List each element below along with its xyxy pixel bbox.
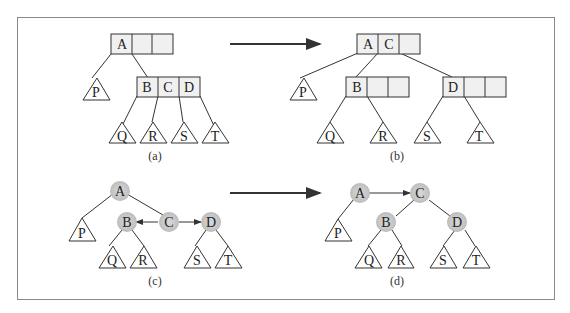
svg-text:T: T [475,129,484,144]
caption-d: (d) [390,274,404,288]
svg-text:D: D [452,215,462,230]
svg-text:P: P [92,85,100,100]
svg-text:T: T [211,129,220,144]
svg-text:S: S [423,129,431,144]
svg-text:C: C [164,215,173,230]
caption-b: (b) [390,149,404,163]
svg-text:C: C [163,80,172,95]
svg-text:C: C [415,186,424,201]
svg-text:A: A [363,37,374,52]
svg-text:T: T [472,253,481,268]
svg-text:P: P [78,226,86,241]
panel-d [325,193,490,268]
svg-text:A: A [355,186,366,201]
svg-text:R: R [396,253,406,268]
svg-text:D: D [184,80,194,95]
svg-text:S: S [180,129,188,144]
svg-text:P: P [334,226,342,241]
svg-text:D: D [206,215,216,230]
svg-text:S: S [439,253,447,268]
svg-text:B: B [352,80,361,95]
panel-b [290,34,506,143]
svg-text:S: S [193,253,201,268]
svg-text:R: R [148,129,158,144]
node-a-key: A [117,37,128,52]
svg-text:C: C [384,37,393,52]
svg-text:D: D [448,80,458,95]
svg-text:Q: Q [117,129,127,144]
svg-text:P: P [299,85,307,100]
panel-b-labels: A C P B D Q R S T (b) [299,37,484,163]
panel-c-nodes: A B C D P Q R S T (c) [78,181,233,288]
svg-text:T: T [224,253,233,268]
panel-a-labels: A P B C D Q R S T (a) [92,37,220,163]
svg-text:R: R [138,253,148,268]
svg-text:B: B [142,80,151,95]
diagram: A P B C D Q R S T (a) A C [0,0,570,313]
caption-c: (c) [148,274,161,288]
svg-text:A: A [115,184,126,199]
caption-a: (a) [148,149,161,163]
panel-c [69,194,242,268]
panel-a [83,34,229,143]
svg-text:B: B [381,215,390,230]
svg-text:Q: Q [364,253,374,268]
svg-text:B: B [122,215,131,230]
panel-d-nodes: A C B D P Q R S T (d) [334,183,481,288]
svg-text:R: R [378,129,388,144]
svg-text:Q: Q [325,129,335,144]
svg-text:Q: Q [107,253,117,268]
